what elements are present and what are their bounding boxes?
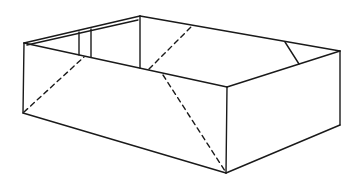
top-rim [24, 16, 340, 87]
left-wall [23, 43, 226, 173]
box-diagram [0, 0, 357, 186]
right-fold-line [285, 42, 299, 64]
dashed-fold-lines [24, 25, 225, 171]
